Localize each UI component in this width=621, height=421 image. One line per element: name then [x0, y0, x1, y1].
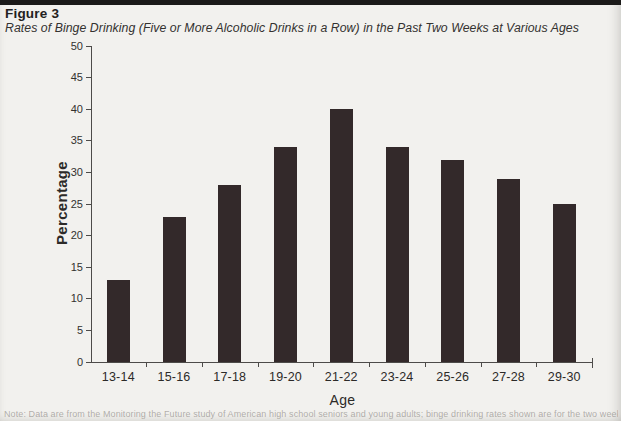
x-axis-title: Age — [92, 392, 593, 408]
bar-17-18 — [218, 185, 241, 362]
x-axis-tick — [425, 362, 426, 367]
bar-19-20 — [274, 147, 297, 362]
source-note: Note: Data are from the Monitoring the F… — [4, 409, 618, 419]
x-axis-tick — [313, 362, 314, 367]
y-axis-tick — [86, 362, 91, 363]
x-axis-tick-label: 21-22 — [313, 370, 369, 384]
x-axis-tick-label: 15-16 — [146, 370, 202, 384]
x-axis-tick — [369, 362, 370, 367]
bar-29-30 — [553, 204, 576, 362]
y-axis-tick — [86, 77, 91, 78]
bar-21-22 — [330, 109, 353, 362]
y-axis-tick — [86, 267, 91, 268]
y-axis-tick — [86, 140, 91, 141]
x-axis-tick-label: 29-30 — [536, 370, 592, 384]
figure-caption: Rates of Binge Drinking (Five or More Al… — [5, 21, 617, 35]
y-axis-tick — [86, 109, 91, 110]
y-axis-tick-label: 15 — [50, 261, 83, 273]
x-axis-tick — [481, 362, 482, 367]
bar-27-28 — [497, 179, 520, 362]
x-axis-tick-label: 17-18 — [202, 370, 258, 384]
y-axis-tick-label: 40 — [50, 103, 83, 115]
figure-number-label: Figure 3 — [5, 6, 59, 21]
y-axis-tick — [86, 235, 91, 236]
y-axis-tick — [86, 330, 91, 331]
x-axis-tick-label: 13-14 — [90, 370, 146, 384]
y-axis-tick — [86, 298, 91, 299]
top-rule-divider — [0, 0, 621, 5]
y-axis-tick-label: 20 — [50, 229, 83, 241]
x-axis-tick-label: 19-20 — [258, 370, 314, 384]
x-axis-tick-label: 25-26 — [425, 370, 481, 384]
x-axis-tick — [536, 362, 537, 367]
x-axis-tick — [202, 362, 203, 367]
bar-13-14 — [107, 280, 130, 362]
y-axis-tick-label: 10 — [50, 292, 83, 304]
bar-25-26 — [441, 160, 464, 362]
y-axis-tick-label: 35 — [50, 134, 83, 146]
scanned-figure-page: Figure 3 Rates of Binge Drinking (Five o… — [0, 0, 621, 421]
x-axis-tick — [146, 362, 147, 367]
bar-15-16 — [163, 217, 186, 362]
y-axis-tick-label: 5 — [50, 324, 83, 336]
bar-23-24 — [386, 147, 409, 362]
x-axis-tick-label: 23-24 — [369, 370, 425, 384]
x-axis-tick — [258, 362, 259, 367]
x-axis-tick — [592, 358, 593, 368]
y-axis-tick — [86, 204, 91, 205]
y-axis-tick-label: 50 — [50, 40, 83, 52]
y-axis-tick — [86, 46, 91, 47]
bar-chart-plot-area: Percentage Age 0510152025303540455013-14… — [91, 46, 593, 363]
x-axis-tick-label: 27-28 — [481, 370, 537, 384]
y-axis-tick-label: 0 — [50, 356, 83, 368]
y-axis-tick-label: 25 — [50, 198, 83, 210]
y-axis-tick-label: 45 — [50, 71, 83, 83]
y-axis-tick-label: 30 — [50, 166, 83, 178]
y-axis-tick — [86, 172, 91, 173]
